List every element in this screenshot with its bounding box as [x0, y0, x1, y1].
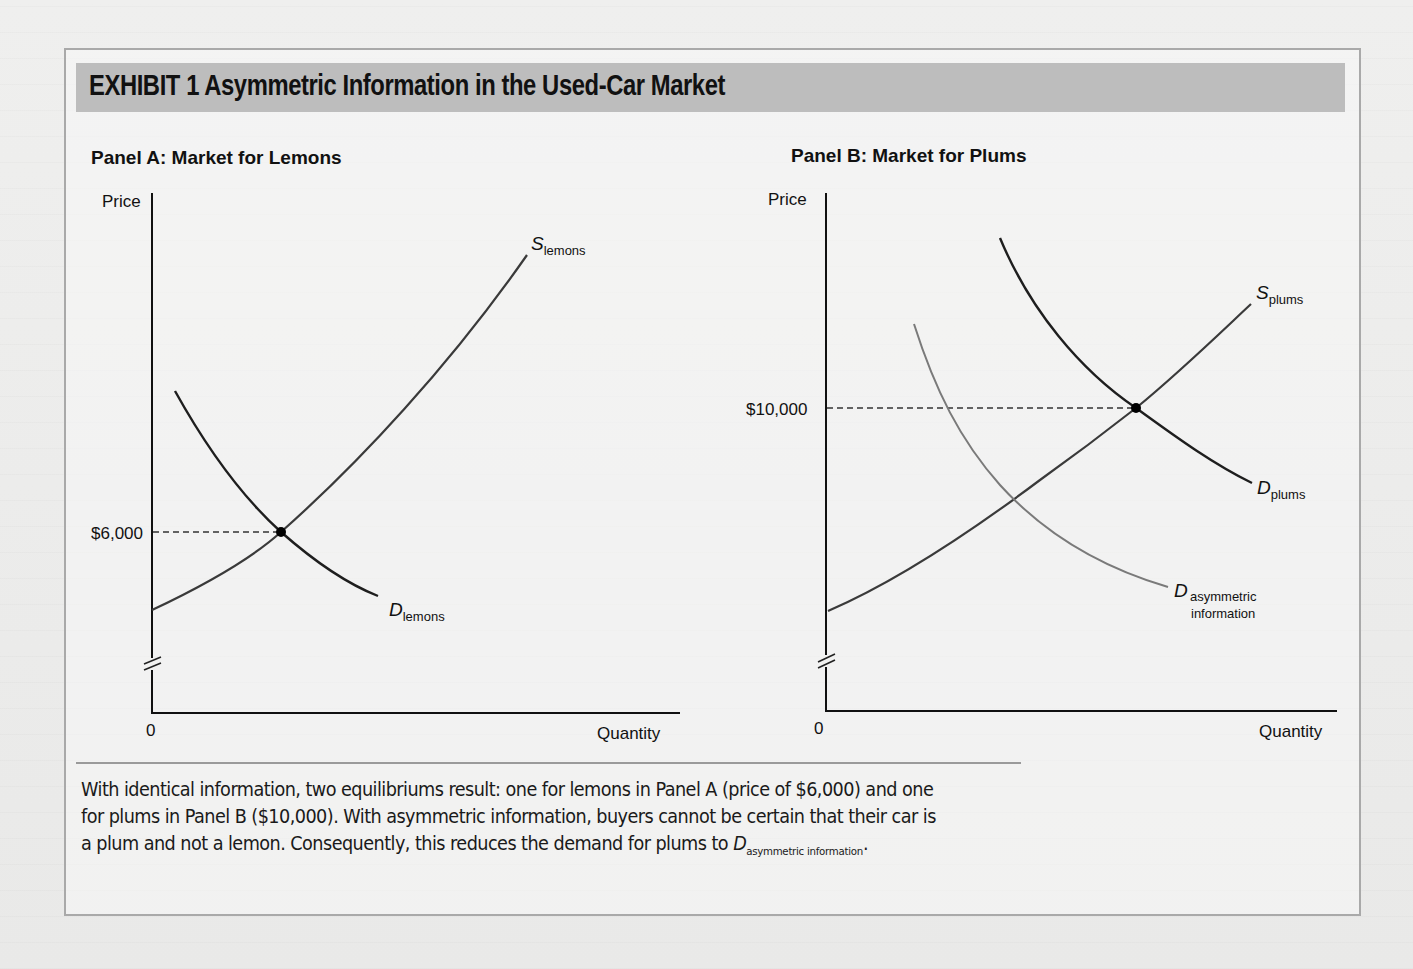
- panel-b-chart: Price Quantity 0 $10,000 Splums Dplums D…: [746, 190, 1337, 741]
- panel-a-axis-break-icon: [144, 657, 161, 670]
- panel-a-demand-label: Dlemons: [389, 599, 445, 624]
- panel-b-demand-label: Dplums: [1257, 477, 1306, 502]
- panel-b-supply-label: Splums: [1256, 282, 1304, 307]
- caption-divider: [76, 762, 1021, 764]
- panel-b-supply-curve: [828, 304, 1251, 611]
- svg-text:asymmetric: asymmetric: [1190, 589, 1257, 604]
- caption-d-subscript: asymmetric information: [746, 845, 863, 858]
- panel-a-supply-label: Slemons: [531, 233, 586, 258]
- panel-b-asymmetric-demand-curve: [914, 324, 1168, 587]
- panel-a-y-axis-label: Price: [102, 192, 141, 211]
- svg-text:D: D: [1174, 580, 1188, 601]
- panel-b-origin-label: 0: [814, 719, 823, 738]
- panel-b-axis-break-icon: [818, 654, 835, 668]
- caption-d-symbol: D: [733, 832, 746, 854]
- panel-b-price-tick: $10,000: [746, 400, 807, 419]
- panel-a-price-tick: $6,000: [91, 524, 143, 543]
- panel-b-asymmetric-demand-label: D asymmetric information: [1174, 580, 1257, 621]
- panel-a-equilibrium-point: [276, 527, 286, 537]
- svg-text:information: information: [1191, 606, 1255, 621]
- panel-b-equilibrium-point: [1131, 403, 1141, 413]
- panel-a-chart: Price Quantity 0 $6,000 Slemons Dlemons: [91, 192, 680, 743]
- panel-b-y-axis-label: Price: [768, 190, 807, 209]
- panel-a-supply-curve: [152, 255, 527, 610]
- exhibit-caption: With identical information, two equilibr…: [81, 776, 937, 865]
- panel-a-origin-label: 0: [146, 721, 155, 740]
- panel-b-demand-curve: [1000, 238, 1252, 483]
- panel-b-x-axis-label: Quantity: [1259, 722, 1323, 741]
- panel-a-demand-curve: [175, 391, 378, 596]
- panel-a-x-axis-label: Quantity: [597, 724, 661, 743]
